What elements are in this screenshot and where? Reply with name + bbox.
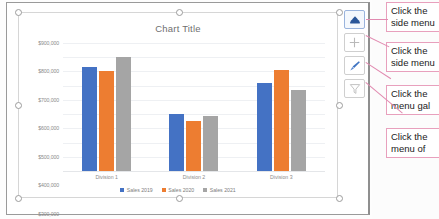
chart-legend[interactable]: Sales 2019Sales 2020Sales 2021 [19, 187, 337, 193]
paintbrush-icon [349, 60, 361, 72]
y-axis-tick-label: $800,000 [38, 68, 59, 74]
selection-handle-bottom-right[interactable] [336, 195, 343, 202]
bar[interactable] [186, 121, 201, 171]
bar[interactable] [99, 71, 114, 171]
bar-groups [63, 43, 325, 171]
annotation-line-1: Click the [391, 5, 439, 17]
bar[interactable] [291, 90, 306, 171]
selection-handle-bottom-left[interactable] [15, 195, 22, 202]
bar[interactable] [82, 67, 97, 171]
plus-icon [349, 37, 360, 48]
document-page: Chart Title $900,000$800,000$700,000$600… [0, 0, 439, 219]
bar-group [169, 43, 218, 171]
chevron-up-icon [349, 15, 361, 25]
legend-item[interactable]: Sales 2020 [162, 187, 194, 193]
selection-handle-bottom-center[interactable] [176, 195, 183, 202]
legend-item[interactable]: Sales 2019 [120, 187, 152, 193]
y-axis-tick-label: $900,000 [38, 40, 59, 46]
bar[interactable] [169, 114, 184, 171]
y-axis-tick-label: $300,000 [38, 211, 59, 217]
selection-handle-top-right[interactable] [336, 9, 343, 16]
gridline: $0 [63, 171, 325, 172]
annotation-callout-2: Click the side menu [386, 42, 439, 72]
connector-line-1 [366, 19, 388, 20]
legend-swatch [162, 188, 166, 192]
x-axis-label: Division 3 [251, 174, 311, 180]
y-axis-tick-label: $600,000 [38, 125, 59, 131]
bar[interactable] [203, 116, 218, 171]
selection-handle-middle-right[interactable] [336, 102, 343, 109]
x-axis-label: Division 2 [164, 174, 224, 180]
funnel-icon [349, 83, 361, 95]
legend-label: Sales 2019 [127, 187, 153, 193]
annotation-line-2: side menu [391, 17, 439, 29]
chart-object[interactable]: Chart Title $900,000$800,000$700,000$600… [18, 12, 338, 198]
chart-filters-button[interactable] [344, 79, 365, 98]
bar[interactable] [257, 83, 272, 171]
chart-styles-button[interactable] [344, 56, 365, 75]
annotation-callout-1: Click the side menu [386, 2, 439, 32]
annotation-callout-3: Click the menu gal [386, 85, 439, 115]
legend-label: Sales 2020 [168, 187, 194, 193]
y-axis-tick-label: $500,000 [38, 154, 59, 160]
bar[interactable] [274, 70, 289, 171]
chart-side-buttons [344, 10, 366, 98]
annotation-line-1: Click the [391, 45, 439, 57]
legend-item[interactable]: Sales 2021 [203, 187, 235, 193]
x-axis-label: Division 1 [77, 174, 137, 180]
y-axis-tick-label: $700,000 [38, 97, 59, 103]
selection-handle-middle-left[interactable] [15, 102, 22, 109]
annotation-line-2: side menu [391, 57, 439, 69]
annotation-line-2: menu of [391, 143, 439, 155]
chart-collapse-button[interactable] [344, 10, 365, 29]
bar[interactable] [116, 57, 131, 171]
selection-handle-top-center[interactable] [176, 9, 183, 16]
bar-group [82, 43, 131, 171]
annotation-line-1: Click the [391, 131, 439, 143]
annotation-line-1: Click the [391, 88, 439, 100]
legend-swatch [120, 188, 124, 192]
chart-plot-area: $900,000$800,000$700,000$600,000$500,000… [63, 43, 325, 171]
legend-swatch [203, 188, 207, 192]
chart-title[interactable]: Chart Title [19, 23, 337, 34]
chart-elements-button[interactable] [344, 33, 365, 52]
legend-label: Sales 2021 [210, 187, 236, 193]
x-axis-labels: Division 1Division 2Division 3 [63, 174, 325, 180]
selection-handle-top-left[interactable] [15, 9, 22, 16]
bar-group [257, 43, 306, 171]
annotation-callout-4: Click the menu of [386, 128, 439, 158]
